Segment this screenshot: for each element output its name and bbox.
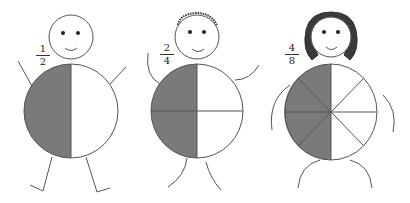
numerator: 1 (40, 43, 46, 54)
left-arm (148, 53, 161, 84)
right-eye (336, 30, 340, 34)
left-leg (168, 158, 187, 187)
fraction-figures-diagram: 1 2 2 4 4 8 (0, 0, 410, 203)
denominator: 8 (289, 55, 295, 66)
right-leg (206, 162, 221, 190)
left-foot (30, 185, 43, 191)
right-eye (202, 30, 206, 34)
fraction-label-3: 4 8 (285, 43, 299, 66)
head (311, 17, 351, 57)
head (175, 15, 219, 59)
right-leg (86, 157, 97, 192)
right-arm (235, 65, 259, 80)
head (49, 15, 93, 59)
right-arm (383, 95, 394, 132)
figure-eighths (271, 12, 394, 188)
fraction-label-1: 1 2 (36, 44, 50, 67)
right-arm (110, 67, 126, 84)
left-eye (188, 30, 192, 34)
numerator: 4 (289, 42, 295, 53)
left-eye (61, 31, 65, 35)
figure-quarters (148, 13, 260, 190)
right-leg (350, 160, 372, 188)
numerator: 2 (164, 42, 170, 53)
left-eye (322, 30, 326, 34)
right-foot (97, 188, 110, 192)
left-leg (298, 160, 320, 188)
left-arm (18, 61, 32, 86)
right-eye (76, 31, 80, 35)
fraction-label-2: 2 4 (160, 43, 174, 66)
left-leg (43, 157, 52, 191)
shaded-half (24, 64, 71, 158)
denominator: 2 (40, 56, 46, 67)
denominator: 4 (164, 55, 170, 66)
figure-halves (18, 15, 126, 192)
